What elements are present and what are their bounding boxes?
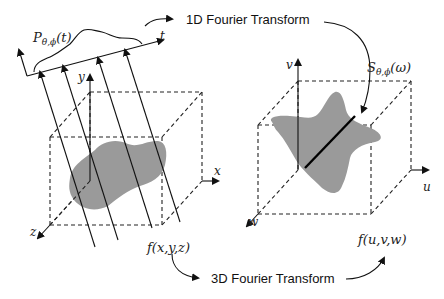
x-axis-label: x bbox=[214, 164, 221, 178]
fourier-slice-diagram: Pθ,ϕ(t) t y x z f(x,y,z) v u w f(u,v,w) … bbox=[0, 0, 444, 299]
object-blob bbox=[69, 141, 166, 209]
t-axis-label: t bbox=[160, 29, 165, 43]
y-axis-label: y bbox=[77, 70, 85, 84]
z-axis-label: z bbox=[29, 225, 37, 239]
projection-label: Pθ,ϕ(t) bbox=[32, 30, 72, 47]
p-axis-arrow bbox=[19, 50, 27, 76]
arrow-3d-to-frequency bbox=[346, 258, 384, 279]
transform-1d-label: 1D Fourier Transform bbox=[186, 12, 310, 27]
z-axis-arrow bbox=[38, 225, 50, 238]
v-axis-label: v bbox=[286, 58, 293, 72]
frequency-function-label: f(u,v,w) bbox=[357, 232, 407, 247]
slice-label: Sθ,ϕ(ω) bbox=[367, 60, 411, 77]
transform-3d-label: 3D Fourier Transform bbox=[211, 271, 335, 286]
projection-profile bbox=[34, 29, 142, 72]
arrow-to-3d-transform bbox=[172, 254, 198, 278]
u-axis-label: u bbox=[423, 180, 431, 194]
w-axis-label: w bbox=[248, 215, 259, 229]
arrow-to-1d-transform bbox=[145, 19, 172, 26]
spatial-function-label: f(x,y,z) bbox=[146, 240, 190, 255]
